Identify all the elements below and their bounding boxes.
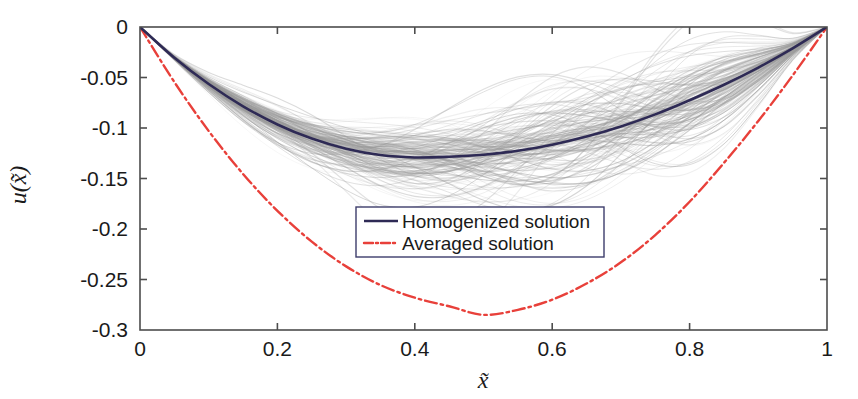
chart-canvas: 00.20.40.60.81 0-0.05-0.1-0.15-0.2-0.25-…: [0, 0, 858, 399]
chart-legend: Homogenized solution Averaged solution: [356, 207, 604, 257]
y-axis-title-text: u(x̃): [5, 166, 31, 205]
y-tick-label: -0.15: [80, 167, 128, 190]
x-tick-label: 0.4: [400, 337, 430, 360]
y-tick-label: 0: [116, 15, 128, 38]
y-tick-label: -0.1: [92, 116, 128, 139]
y-tick-label: -0.25: [80, 268, 128, 291]
x-tick-label: 0.2: [263, 337, 292, 360]
x-tick-label: 0.8: [675, 337, 704, 360]
y-tick-label: -0.3: [92, 318, 128, 341]
legend-label-homogenized: Homogenized solution: [402, 211, 590, 232]
y-axis-title: u(x̃): [5, 166, 31, 205]
legend-label-averaged: Averaged solution: [402, 233, 554, 254]
y-tick-label: -0.2: [92, 217, 128, 240]
x-tick-label: 1: [821, 337, 833, 360]
y-axis-tick-labels: 0-0.05-0.1-0.15-0.2-0.25-0.3: [80, 15, 128, 341]
y-tick-label: -0.05: [80, 66, 128, 89]
x-axis-title: x̃: [477, 367, 490, 393]
x-tick-label: 0.6: [538, 337, 567, 360]
figure-container: 00.20.40.60.81 0-0.05-0.1-0.15-0.2-0.25-…: [0, 0, 858, 399]
x-axis-tick-labels: 00.20.40.60.81: [134, 337, 833, 360]
x-axis-title-text: x̃: [477, 367, 490, 393]
x-tick-label: 0: [134, 337, 146, 360]
